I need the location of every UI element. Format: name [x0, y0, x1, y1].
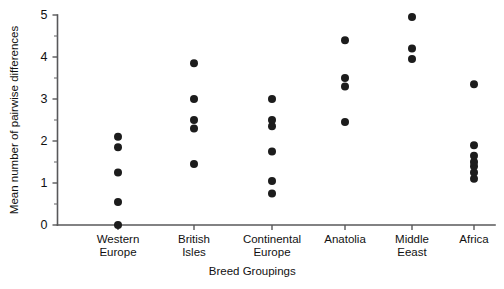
data-point [268, 116, 276, 124]
y-tick-label: 1 [41, 176, 48, 190]
data-point [114, 133, 122, 141]
data-point [114, 198, 122, 206]
scatter-chart: 012345WesternEuropeBritishIslesContinent… [0, 0, 504, 289]
x-axis-title: Breed Groupings [209, 265, 296, 277]
data-point [114, 169, 122, 177]
x-tick-label: Isles [182, 246, 206, 258]
data-point [114, 221, 122, 229]
data-point [268, 190, 276, 198]
data-point [470, 141, 478, 149]
data-point [408, 45, 416, 53]
data-point [408, 13, 416, 21]
x-tick-label: British [178, 233, 210, 245]
data-point [268, 95, 276, 103]
y-tick-label: 3 [41, 92, 48, 106]
chart-canvas: 012345WesternEuropeBritishIslesContinent… [0, 0, 504, 289]
data-point [190, 95, 198, 103]
x-tick-label: Anatolia [324, 233, 366, 245]
data-point [470, 152, 478, 160]
data-point [408, 55, 416, 63]
data-point [268, 148, 276, 156]
data-point [341, 74, 349, 82]
x-tick-label: Continental [243, 233, 301, 245]
data-point [268, 177, 276, 185]
data-point [190, 160, 198, 168]
x-tick-label: Middle [395, 233, 429, 245]
data-point [341, 118, 349, 126]
y-tick-label: 4 [41, 50, 48, 64]
y-tick-label: 2 [41, 134, 48, 148]
data-point [190, 124, 198, 132]
data-point [190, 116, 198, 124]
data-point [190, 59, 198, 67]
data-point [341, 36, 349, 44]
data-point [341, 82, 349, 90]
y-tick-label: 5 [41, 8, 48, 22]
x-tick-label: Western [97, 233, 140, 245]
y-tick-label: 0 [41, 218, 48, 232]
x-tick-label: Europe [253, 246, 290, 258]
data-point [470, 80, 478, 88]
x-tick-label: Africa [459, 233, 489, 245]
y-axis-title: Mean number of pairwise differences [8, 26, 20, 215]
x-tick-label: Europe [99, 246, 136, 258]
data-point [114, 143, 122, 151]
x-tick-label: Eeast [397, 246, 427, 258]
